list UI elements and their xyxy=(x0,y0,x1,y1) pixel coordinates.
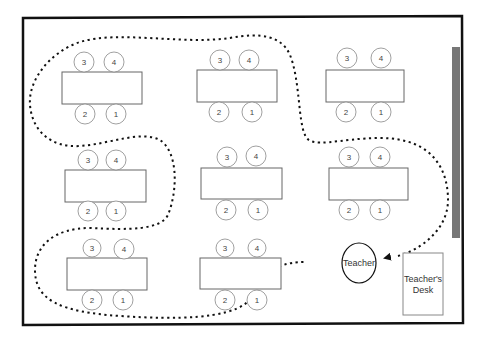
seat-1-label: 1 xyxy=(378,206,383,215)
table-3 xyxy=(326,70,404,102)
seat-1-label: 1 xyxy=(250,108,255,117)
classroom-diagram: Teacher Teacher's Desk 3 4 2 1 3 4 2 1 3… xyxy=(0,0,483,355)
teacher-desk-label-line2: Desk xyxy=(413,285,434,295)
seat-3-label: 3 xyxy=(218,56,223,65)
teacher-desk: Teacher's Desk xyxy=(403,253,443,315)
table-1 xyxy=(62,72,142,104)
seat-3-label: 3 xyxy=(82,58,87,67)
seat-3-label: 3 xyxy=(345,54,350,63)
seat-2-label: 2 xyxy=(223,296,228,305)
teacher-label: Teacher xyxy=(343,258,375,268)
seat-3-label: 3 xyxy=(223,244,228,253)
seat-4-label: 4 xyxy=(122,245,127,254)
seat-2-label: 2 xyxy=(90,296,95,305)
table-5 xyxy=(201,168,282,199)
seat-4-label: 4 xyxy=(114,156,119,165)
seat-4-label: 4 xyxy=(379,54,384,63)
seat-4-label: 4 xyxy=(112,58,117,67)
table-8 xyxy=(200,258,281,289)
seat-2-label: 2 xyxy=(347,206,352,215)
table-7 xyxy=(67,258,147,290)
seat-2-label: 2 xyxy=(86,207,91,216)
table-6 xyxy=(329,168,408,200)
seat-1-label: 1 xyxy=(255,296,260,305)
seat-4-label: 4 xyxy=(255,244,260,253)
seat-2-label: 2 xyxy=(217,108,222,117)
seat-3-label: 3 xyxy=(86,156,91,165)
seat-2-label: 2 xyxy=(224,206,229,215)
seat-4-label: 4 xyxy=(378,153,383,162)
seat-1-label: 1 xyxy=(379,108,384,117)
table-2 xyxy=(197,70,277,102)
seat-1-label: 1 xyxy=(256,206,261,215)
seat-1-label: 1 xyxy=(121,296,126,305)
whiteboard xyxy=(452,47,460,238)
seat-1-label: 1 xyxy=(114,110,119,119)
seat-4-label: 4 xyxy=(254,152,259,161)
table-4 xyxy=(65,170,146,202)
seat-3-label: 3 xyxy=(347,153,352,162)
seat-2-label: 2 xyxy=(344,108,349,117)
teacher-desk-label-line1: Teacher's xyxy=(404,274,443,284)
teacher-desk-rect xyxy=(403,253,443,315)
seat-1-label: 1 xyxy=(114,207,119,216)
seat-3-label: 3 xyxy=(225,153,230,162)
seat-2-label: 2 xyxy=(83,110,88,119)
seat-4-label: 4 xyxy=(247,56,252,65)
teacher: Teacher xyxy=(342,243,376,283)
seat-3-label: 3 xyxy=(90,244,95,253)
